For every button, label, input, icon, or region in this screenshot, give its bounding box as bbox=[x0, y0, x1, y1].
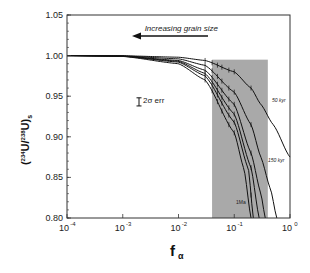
y-tick-label: 0.85 bbox=[45, 172, 63, 182]
svg-text:-1: -1 bbox=[238, 221, 244, 227]
y-tick-label: 0.80 bbox=[45, 213, 63, 223]
curve-label-150kyr: 150 kyr bbox=[268, 157, 285, 163]
svg-text:-4: -4 bbox=[70, 221, 76, 227]
x-tick-label: 10 bbox=[170, 223, 180, 233]
error-bar-icon bbox=[137, 98, 142, 106]
error-bar-label: 2σ err bbox=[143, 96, 165, 105]
svg-text:0: 0 bbox=[294, 221, 298, 227]
arrow-left-icon bbox=[132, 33, 141, 40]
curve-label-50kyr: 50 kyr bbox=[272, 97, 286, 103]
x-tick-label: 10 bbox=[282, 223, 292, 233]
y-tick-label: 1.05 bbox=[45, 10, 63, 20]
x-axis-label: f α bbox=[170, 242, 184, 261]
y-tick-label: 0.95 bbox=[45, 91, 63, 101]
arrow-label: Increasing grain size bbox=[145, 24, 219, 33]
curve-label-1ma: 1Ma bbox=[236, 199, 246, 205]
y-tick-label: 0.90 bbox=[45, 132, 63, 142]
svg-text:-3: -3 bbox=[126, 221, 132, 227]
chart: 0.800.850.900.951.001.05 10-410-310-210-… bbox=[0, 0, 310, 273]
x-tick-label: 10 bbox=[226, 223, 236, 233]
y-tick-label: 1.00 bbox=[45, 51, 63, 61]
svg-text:-2: -2 bbox=[182, 221, 188, 227]
x-tick-label: 10 bbox=[115, 223, 125, 233]
y-axis-label: (234U/238U)s bbox=[19, 115, 33, 165]
svg-text:f: f bbox=[170, 242, 176, 259]
svg-text:α: α bbox=[178, 251, 184, 261]
svg-text:(234U/238U)s: (234U/238U)s bbox=[19, 115, 33, 165]
x-tick-label: 10 bbox=[59, 223, 69, 233]
